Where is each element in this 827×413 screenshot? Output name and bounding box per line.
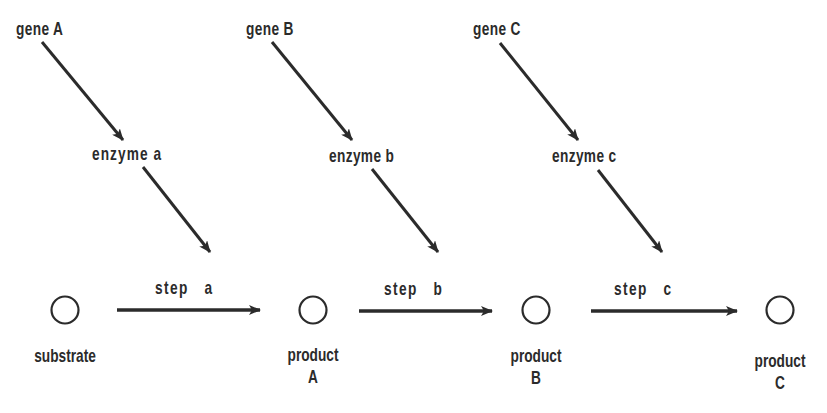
node-product-b-line2: B xyxy=(493,367,579,389)
diagram-graphics xyxy=(0,0,827,413)
arrow-enzyme-c-to-step-c xyxy=(598,170,662,252)
step-b-label: step b xyxy=(384,279,443,299)
gene-c-label: gene C xyxy=(473,19,521,39)
node-product-c-circle xyxy=(767,297,794,324)
arrow-gene-b-to-enzyme-b xyxy=(272,42,352,140)
pathway-diagram: gene A gene B gene C enzyme a enzyme b e… xyxy=(0,0,827,413)
node-product-c-line1: product xyxy=(737,350,823,372)
node-product-b-label: product B xyxy=(493,345,579,389)
node-substrate-circle xyxy=(52,297,79,324)
node-product-c-line2: C xyxy=(737,372,823,394)
node-product-c-label: product C xyxy=(737,350,823,394)
arrow-enzyme-a-to-step-a xyxy=(143,167,210,252)
arrow-gene-a-to-enzyme-a xyxy=(42,42,123,140)
arrow-enzyme-b-to-step-b xyxy=(372,169,438,252)
step-c-label: step c xyxy=(614,279,673,299)
node-product-a-circle xyxy=(300,297,327,324)
node-product-a-line1: product xyxy=(270,344,356,366)
gene-a-label: gene A xyxy=(16,19,63,39)
node-product-a-label: product A xyxy=(270,344,356,388)
node-substrate-label: substrate xyxy=(22,345,108,367)
node-substrate-line1: substrate xyxy=(22,345,108,367)
step-a-label: step a xyxy=(155,278,214,298)
node-product-b-line1: product xyxy=(493,345,579,367)
enzyme-c-label: enzyme c xyxy=(552,146,616,166)
node-product-a-line2: A xyxy=(270,366,356,388)
node-product-b-circle xyxy=(523,297,550,324)
gene-b-label: gene B xyxy=(246,19,294,39)
enzyme-a-label: enzyme a xyxy=(92,144,162,164)
arrow-gene-c-to-enzyme-c xyxy=(500,43,578,140)
enzyme-b-label: enzyme b xyxy=(329,146,394,166)
